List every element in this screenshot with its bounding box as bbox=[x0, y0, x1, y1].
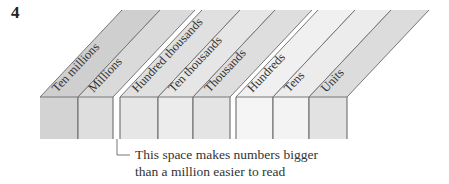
front-face-hundreds bbox=[236, 97, 273, 139]
column-front-faces bbox=[40, 97, 347, 139]
front-face-tens bbox=[273, 97, 309, 139]
front-face-units bbox=[309, 97, 347, 139]
place-value-diagram: Ten millionsMillionsHundred thousandsTen… bbox=[0, 0, 449, 184]
callout: This space makes numbers bigger than a m… bbox=[117, 139, 318, 179]
front-face-ten-thousands bbox=[158, 97, 193, 139]
front-face-hundred-thousands bbox=[120, 97, 158, 139]
callout-leader-line bbox=[117, 139, 130, 155]
front-face-ten-millions bbox=[40, 97, 78, 139]
front-face-millions bbox=[78, 97, 113, 139]
front-face-thousands bbox=[193, 97, 230, 139]
annotation-line-2: than a million easier to read bbox=[135, 164, 286, 179]
annotation-line-1: This space makes numbers bigger bbox=[135, 147, 318, 162]
